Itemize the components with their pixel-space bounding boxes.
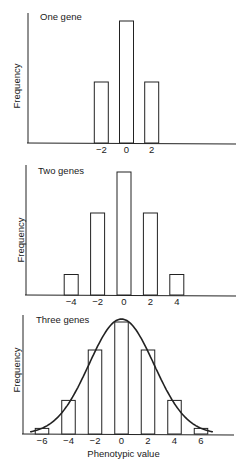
genes-histogram-figure: One geneFrequency−202Two genesFrequency−… bbox=[0, 0, 250, 468]
panel-two-genes: Two genesFrequency−4−2024 bbox=[15, 165, 236, 307]
y-axis-label: Frequency bbox=[11, 347, 22, 392]
histogram-bar bbox=[115, 322, 129, 434]
x-tick-label: −4 bbox=[63, 435, 74, 446]
x-tick-label: 2 bbox=[149, 144, 154, 155]
panel-one-gene: One geneFrequency−202 bbox=[11, 11, 236, 155]
x-tick-label: 4 bbox=[172, 435, 177, 446]
x-tick-label: −2 bbox=[92, 296, 103, 307]
histogram-bar bbox=[170, 275, 184, 296]
x-axis-label: Phenotypic value bbox=[87, 448, 159, 459]
x-tick-label: 0 bbox=[119, 435, 124, 446]
histogram-bar bbox=[94, 82, 108, 143]
panel-title: Two genes bbox=[38, 165, 84, 176]
histogram-bar bbox=[120, 21, 134, 143]
y-axis-label: Frequency bbox=[11, 63, 22, 108]
histogram-bar bbox=[143, 213, 157, 295]
histogram-bar bbox=[64, 275, 78, 296]
y-axis-label: Frequency bbox=[15, 217, 26, 262]
panel-title: One gene bbox=[40, 11, 82, 22]
x-tick-label: −2 bbox=[96, 144, 107, 155]
x-tick-label: −4 bbox=[66, 296, 77, 307]
histogram-bar bbox=[62, 400, 76, 434]
x-tick-label: 0 bbox=[124, 144, 129, 155]
x-tick-label: 6 bbox=[198, 435, 203, 446]
panel-title: Three genes bbox=[36, 314, 90, 325]
x-tick-label: −2 bbox=[90, 435, 101, 446]
x-tick-label: 0 bbox=[121, 296, 126, 307]
x-tick-label: 2 bbox=[148, 296, 153, 307]
histogram-bar bbox=[117, 172, 131, 295]
histogram-bar bbox=[91, 213, 105, 295]
histogram-bar bbox=[145, 82, 159, 143]
x-tick-label: −6 bbox=[37, 435, 48, 446]
x-tick-label: 4 bbox=[174, 296, 179, 307]
x-tick-label: 2 bbox=[145, 435, 150, 446]
panel-three-genes: Three genesFrequency−6−4−20246Phenotypic… bbox=[11, 314, 234, 459]
histogram-bar bbox=[168, 400, 182, 434]
